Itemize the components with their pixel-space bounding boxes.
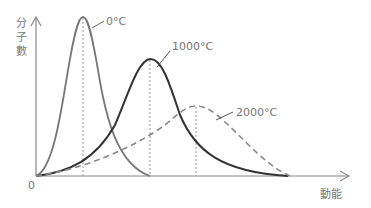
x-axis-label: 動能	[320, 187, 342, 201]
label-0c: 0°C	[106, 15, 126, 28]
y-label-char-1: 分	[16, 17, 27, 30]
origin-label: 0	[28, 179, 35, 192]
y-label-char-2: 子	[16, 31, 27, 44]
leader-0c	[92, 21, 104, 28]
chart-canvas: 0°C 1000°C 2000°C 分 子 數 0 動能	[0, 0, 371, 208]
label-2000c: 2000°C	[236, 106, 277, 119]
label-1000c: 1000°C	[172, 40, 213, 53]
y-label-char-3: 數	[16, 45, 27, 58]
leader-1000c	[157, 51, 170, 67]
